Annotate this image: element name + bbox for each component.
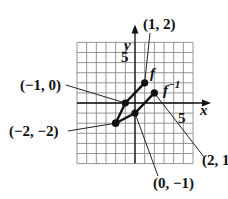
f-inverse-label: f−1 (163, 78, 180, 98)
point-label-0-neg1: (0, −1) (153, 175, 194, 192)
point-label-neg1-0: (−1, 0) (20, 77, 61, 94)
data-point (151, 89, 158, 96)
data-point (122, 99, 129, 106)
data-point (141, 79, 148, 86)
data-point (112, 120, 119, 127)
y-tick-label-5: 5 (121, 49, 129, 65)
x-axis-label: x (199, 102, 208, 118)
graph-figure: y x 5 5 f f−1 (1, 2) (−1, 0) (−2, −2) (0… (0, 0, 228, 199)
data-point (131, 110, 138, 117)
point-label-2-1: (2, 1 (202, 152, 228, 169)
x-tick-label-5: 5 (178, 110, 186, 126)
point-label-neg2-neg2: (−2, −2) (9, 123, 59, 140)
point-label-1-2: (1, 2) (143, 16, 176, 33)
